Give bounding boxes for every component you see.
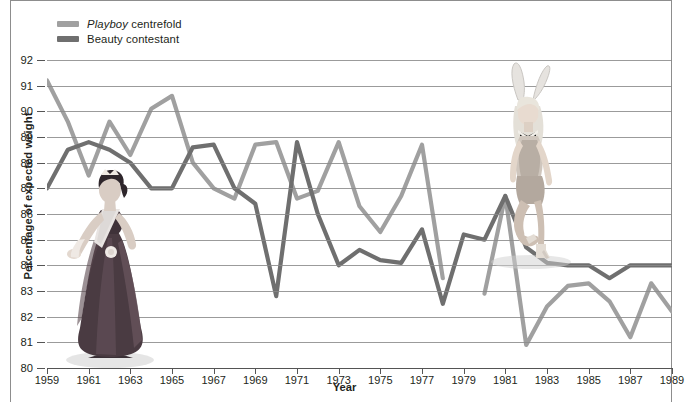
beauty-queen-illustration xyxy=(58,168,163,368)
gridline-92 xyxy=(47,60,672,61)
y-tick-mark-80 xyxy=(37,368,45,369)
y-tick-label-92: 92 xyxy=(7,55,33,66)
x-tick-label-1959: 1959 xyxy=(27,374,67,386)
y-tick-mark-82 xyxy=(37,317,45,318)
x-tick-label-1969: 1969 xyxy=(235,374,275,386)
legend-swatch-playboy xyxy=(57,21,79,27)
x-axis: 1959196119631965196719691971197319751977… xyxy=(47,368,672,398)
legend-item-playboy: Playboy centrefold xyxy=(57,17,182,31)
y-tick-mark-89 xyxy=(37,137,45,138)
gridline-89 xyxy=(47,137,672,138)
x-tick-label-1961: 1961 xyxy=(69,374,109,386)
y-tick-mark-81 xyxy=(37,342,45,343)
legend-label-beauty: Beauty contestant xyxy=(87,33,179,45)
y-tick-label-85: 85 xyxy=(7,235,33,246)
x-tick-label-1967: 1967 xyxy=(194,374,234,386)
legend-item-beauty: Beauty contestant xyxy=(57,32,182,46)
legend-swatch-beauty xyxy=(57,36,79,42)
y-tick-label-89: 89 xyxy=(7,132,33,143)
legend-label-playboy-rest: centrefold xyxy=(128,18,182,30)
y-tick-label-83: 83 xyxy=(7,286,33,297)
y-tick-mark-88 xyxy=(37,163,45,164)
y-tick-mark-84 xyxy=(37,265,45,266)
x-tick-label-1977: 1977 xyxy=(402,374,442,386)
x-tick-label-1971: 1971 xyxy=(277,374,317,386)
x-tick-label-1989: 1989 xyxy=(652,374,689,386)
x-tick-label-1985: 1985 xyxy=(569,374,609,386)
playboy-bunny-illustration xyxy=(484,62,574,272)
x-tick-label-1973: 1973 xyxy=(319,374,359,386)
y-tick-mark-86 xyxy=(37,214,45,215)
y-axis: 92919089888786858483828180 xyxy=(0,55,47,375)
y-tick-mark-90 xyxy=(37,111,45,112)
y-tick-label-84: 84 xyxy=(7,260,33,271)
chart-legend: Playboy centrefold Beauty contestant xyxy=(57,17,182,47)
x-tick-mark-1989 xyxy=(672,368,673,374)
gridline-88 xyxy=(47,163,672,164)
gridline-80 xyxy=(47,368,672,369)
y-tick-label-91: 91 xyxy=(7,81,33,92)
x-tick-label-1963: 1963 xyxy=(110,374,150,386)
x-tick-label-1965: 1965 xyxy=(152,374,192,386)
x-tick-label-1987: 1987 xyxy=(610,374,650,386)
y-tick-label-86: 86 xyxy=(7,209,33,220)
y-tick-label-87: 87 xyxy=(7,183,33,194)
x-tick-label-1975: 1975 xyxy=(360,374,400,386)
y-tick-mark-91 xyxy=(37,86,45,87)
x-tick-label-1979: 1979 xyxy=(444,374,484,386)
y-tick-label-88: 88 xyxy=(7,158,33,169)
y-tick-mark-83 xyxy=(37,291,45,292)
x-tick-label-1983: 1983 xyxy=(527,374,567,386)
legend-label-playboy: Playboy centrefold xyxy=(87,18,182,30)
y-tick-label-90: 90 xyxy=(7,106,33,117)
y-tick-mark-85 xyxy=(37,240,45,241)
chart-figure: Playboy centrefold Beauty contestant Per… xyxy=(0,0,689,402)
y-tick-mark-92 xyxy=(37,60,45,61)
y-tick-label-80: 80 xyxy=(7,363,33,374)
x-tick-label-1981: 1981 xyxy=(485,374,525,386)
y-tick-label-81: 81 xyxy=(7,337,33,348)
y-tick-label-82: 82 xyxy=(7,312,33,323)
gridline-91 xyxy=(47,86,672,87)
y-tick-mark-87 xyxy=(37,188,45,189)
legend-label-playboy-emphasis: Playboy xyxy=(87,18,128,30)
gridline-90 xyxy=(47,111,672,112)
